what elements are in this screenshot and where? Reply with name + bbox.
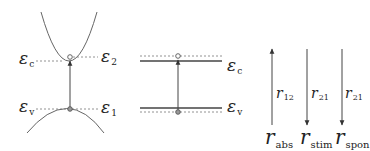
valence-band-curve: [27, 109, 104, 134]
upper-state-dot: [68, 55, 73, 60]
epsilon-1-label: ε1: [101, 99, 117, 116]
label-subscript: spon: [346, 139, 370, 150]
label-symbol: ε: [101, 97, 110, 117]
label-subscript: abs: [276, 139, 294, 150]
epsilon-v-label-middle: εv: [227, 98, 242, 115]
epsilon-c-label-middle: εc: [227, 57, 242, 74]
upper-level-dot: [176, 54, 181, 59]
label-subscript: v: [29, 107, 34, 117]
label-subscript: stim: [311, 139, 333, 150]
label-subscript: c: [29, 59, 34, 69]
label-subscript: v: [237, 107, 242, 117]
label-symbol: r: [265, 125, 275, 149]
label-subscript: 1: [111, 108, 117, 118]
conduction-band-curve: [41, 12, 97, 61]
rate-label-r21-spon: r21: [345, 86, 363, 100]
rate-label-r21-stim: r21: [311, 86, 329, 100]
lower-level-dot: [176, 110, 181, 115]
label-subscript: 12: [284, 93, 294, 102]
epsilon-c-label-left: εc: [19, 50, 34, 67]
label-symbol: r: [276, 85, 283, 101]
r-spon-label: rspon: [335, 127, 370, 147]
r-stim-label: rstim: [300, 127, 332, 147]
label-symbol: r: [311, 85, 318, 101]
level-diagram-panel: [140, 54, 222, 115]
epsilon-2-label: ε2: [101, 48, 117, 65]
label-symbol: ε: [101, 46, 110, 66]
label-symbol: r: [300, 125, 310, 149]
label-symbol: ε: [227, 55, 236, 75]
label-symbol: ε: [19, 96, 28, 116]
label-subscript: 21: [319, 93, 329, 102]
label-symbol: r: [335, 125, 345, 149]
r-abs-label: rabs: [265, 127, 293, 147]
lower-state-dot: [68, 107, 73, 112]
epsilon-v-label-left: εv: [19, 98, 34, 115]
label-subscript: c: [237, 66, 242, 76]
rate-label-r12: r12: [276, 86, 294, 100]
label-symbol: ε: [227, 96, 236, 116]
label-subscript: 2: [111, 57, 117, 67]
band-diagram-panel: [27, 12, 104, 133]
label-symbol: r: [345, 85, 352, 101]
label-symbol: ε: [19, 48, 28, 68]
label-subscript: 21: [353, 93, 363, 102]
